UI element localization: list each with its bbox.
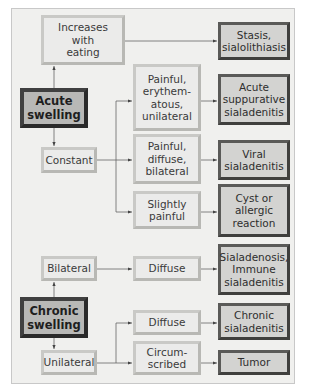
origin-acute-swelling: Acute swelling — [20, 88, 88, 128]
criterion-bilateral: Bilateral — [41, 256, 97, 281]
criterion-increases-with-eating: Increases with eating — [41, 15, 125, 65]
result-acute-suppurative: Acute suppurative sialadenitis — [218, 74, 290, 125]
result-viral-sialadenitis: Viral sialadenitis — [218, 140, 290, 180]
criterion-slightly-painful: Slightly painful — [133, 191, 201, 229]
result-stasis: Stasis, sialolithiasis — [218, 22, 290, 60]
criterion-painful-erythematous: Painful, erythem- atous, unilateral — [133, 64, 201, 131]
criterion-circumscribed: Circum- scribed — [133, 341, 201, 375]
criterion-painful-diffuse-bilateral: Painful, diffuse, bilateral — [133, 134, 201, 184]
result-tumor: Tumor — [218, 350, 290, 375]
result-chronic-sialadenitis: Chronic sialadenitis — [218, 303, 290, 340]
criterion-constant: Constant — [41, 147, 97, 173]
criterion-diffuse-bilateral: Diffuse — [133, 256, 201, 281]
criterion-diffuse-unilateral: Diffuse — [133, 310, 201, 335]
origin-chronic-swelling: Chronic swelling — [20, 297, 88, 338]
result-sialadenosis: Sialadenosis, Immune sialadenitis — [218, 244, 290, 295]
result-cyst-or-allergic: Cyst or allergic reaction — [218, 184, 290, 237]
criterion-unilateral: Unilateral — [41, 350, 97, 375]
